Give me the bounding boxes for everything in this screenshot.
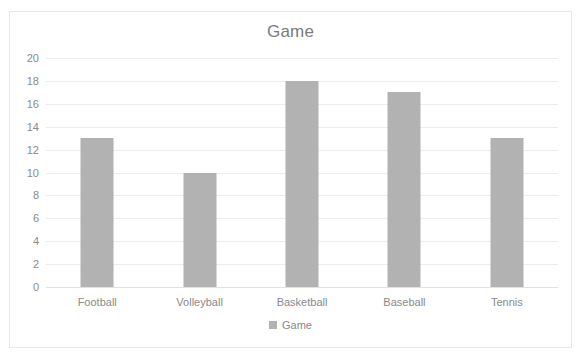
- y-axis-tick-label: 8: [9, 189, 39, 201]
- bars-layer: FootballVolleyballBasketballBaseballTenn…: [46, 58, 558, 287]
- bar-group: Volleyball: [148, 58, 250, 287]
- y-axis-tick-label: 2: [9, 258, 39, 270]
- chart-title: Game: [10, 22, 571, 42]
- chart-legend[interactable]: Game: [10, 319, 571, 331]
- y-axis-tick-label: 18: [9, 75, 39, 87]
- bar[interactable]: [286, 81, 319, 287]
- y-axis-tick-label: 16: [9, 98, 39, 110]
- gridline: 0: [46, 287, 558, 288]
- bar[interactable]: [183, 173, 216, 288]
- y-axis-tick-label: 12: [9, 144, 39, 156]
- x-axis-category-label: Football: [78, 296, 117, 308]
- bar-group: Baseball: [353, 58, 455, 287]
- x-axis-category-label: Tennis: [491, 296, 523, 308]
- y-axis-tick-label: 0: [9, 281, 39, 293]
- bar-group: Basketball: [251, 58, 353, 287]
- chart-container[interactable]: Game 20181614121086420 FootballVolleybal…: [9, 11, 572, 348]
- y-axis-tick-label: 20: [9, 52, 39, 64]
- y-axis-tick-label: 6: [9, 212, 39, 224]
- y-axis-tick-label: 4: [9, 235, 39, 247]
- plot-area: 20181614121086420 FootballVolleyballBask…: [46, 58, 558, 287]
- x-axis-category-label: Volleyball: [176, 296, 222, 308]
- bar-group: Football: [46, 58, 148, 287]
- x-axis-category-label: Basketball: [277, 296, 328, 308]
- bar-group: Tennis: [456, 58, 558, 287]
- y-axis-tick-label: 14: [9, 121, 39, 133]
- x-axis-category-label: Baseball: [383, 296, 425, 308]
- bar[interactable]: [388, 92, 421, 287]
- y-axis-tick-label: 10: [9, 167, 39, 179]
- legend-item-label: Game: [282, 319, 312, 331]
- bar[interactable]: [490, 138, 523, 287]
- square-marker-icon: [269, 321, 277, 329]
- bar[interactable]: [81, 138, 114, 287]
